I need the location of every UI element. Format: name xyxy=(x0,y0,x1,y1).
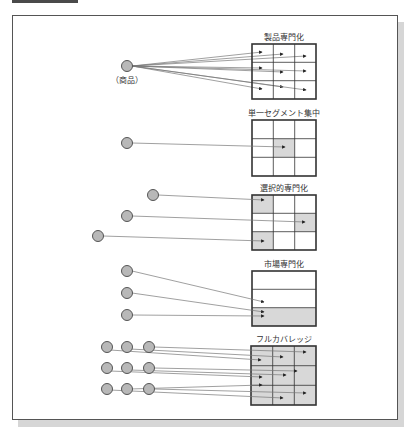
panel-title: 製品専門化 xyxy=(264,32,304,42)
product-circle xyxy=(122,310,133,321)
product-circle xyxy=(122,384,133,395)
product-circle xyxy=(122,363,133,374)
product-circle xyxy=(144,363,155,374)
panel-title: フルカバレッジ xyxy=(256,335,312,344)
panel-full-coverage: フルカバレッジ xyxy=(102,335,317,405)
panel-title: 市場専門化 xyxy=(264,259,304,269)
product-circle xyxy=(122,266,133,277)
product-circle xyxy=(122,138,133,149)
product-circle xyxy=(122,342,133,353)
panel-product-specialization: 製品専門化 （商品） xyxy=(111,32,316,99)
circle-label: （商品） xyxy=(111,75,143,85)
product-circle xyxy=(102,384,113,395)
panel-market-specialization: 市場専門化 xyxy=(122,259,317,326)
panel-title: 単一セグメント集中 xyxy=(248,108,320,118)
product-circle xyxy=(144,384,155,395)
product-circle xyxy=(93,231,104,242)
product-circle xyxy=(122,211,133,222)
panel-single-segment: 単一セグメント集中 xyxy=(122,108,321,176)
panel-title: 選択的専門化 xyxy=(260,183,308,193)
product-circle xyxy=(102,342,113,353)
product-circle xyxy=(144,342,155,353)
product-circle xyxy=(122,288,133,299)
segmentation-diagram: 製品専門化 （商品） 単一セグメント集中 xyxy=(0,0,412,436)
product-circle xyxy=(122,61,133,72)
product-circle xyxy=(148,190,159,201)
panel-selective-specialization: 選択的専門化 xyxy=(93,183,317,250)
product-circle xyxy=(102,363,113,374)
